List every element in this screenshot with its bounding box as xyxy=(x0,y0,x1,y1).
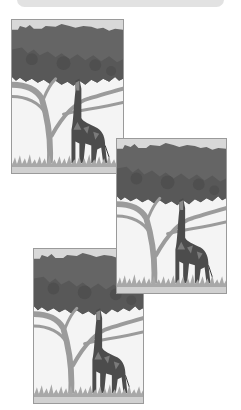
top-bar xyxy=(17,0,224,7)
giraffe-tree-image xyxy=(12,20,123,173)
giraffe-illustration-panel xyxy=(11,19,124,174)
giraffe-illustration-panel xyxy=(116,138,227,294)
giraffe-tree-image xyxy=(117,139,226,293)
